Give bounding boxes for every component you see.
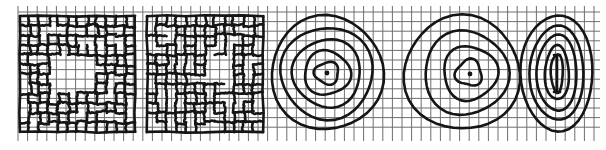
hand-drawn-stroke bbox=[97, 55, 107, 56]
hand-drawn-stroke bbox=[195, 83, 205, 84]
hand-drawn-stroke bbox=[234, 93, 235, 103]
hand-drawn-stroke bbox=[87, 24, 97, 25]
hand-drawn-stroke bbox=[215, 24, 224, 25]
hand-drawn-stroke bbox=[87, 92, 97, 93]
hand-drawn-stroke bbox=[195, 64, 196, 74]
hand-drawn-stroke bbox=[58, 113, 68, 114]
hand-drawn-stroke bbox=[116, 94, 117, 103]
hand-drawn-stroke bbox=[49, 121, 59, 122]
hand-drawn-stroke bbox=[106, 26, 115, 27]
hand-drawn-stroke bbox=[166, 25, 176, 26]
hand-drawn-stroke bbox=[147, 63, 157, 64]
hand-drawn-stroke bbox=[30, 72, 40, 73]
hand-drawn-stroke bbox=[106, 102, 116, 104]
hand-drawn-stroke bbox=[253, 55, 262, 56]
hand-drawn-stroke bbox=[126, 54, 135, 55]
hand-drawn-stroke bbox=[39, 44, 49, 45]
hand-drawn-stroke bbox=[115, 84, 117, 93]
hand-drawn-stroke bbox=[234, 45, 244, 46]
hand-drawn-stroke bbox=[184, 113, 185, 123]
hand-drawn-stroke bbox=[96, 123, 97, 132]
hand-drawn-stroke bbox=[147, 132, 263, 133]
hand-drawn-stroke bbox=[77, 26, 87, 27]
hand-drawn-stroke bbox=[97, 92, 107, 93]
hand-drawn-stroke bbox=[97, 73, 107, 74]
hand-drawn-stroke bbox=[106, 72, 116, 73]
hand-drawn-stroke bbox=[116, 55, 126, 56]
hand-drawn-stroke bbox=[39, 73, 49, 74]
hand-drawn-stroke bbox=[77, 121, 87, 122]
hand-drawn-stroke bbox=[39, 63, 49, 64]
hand-drawn-stroke bbox=[186, 103, 195, 104]
hand-drawn-stroke bbox=[49, 64, 50, 73]
hand-drawn-stroke bbox=[243, 54, 253, 55]
hand-drawn-stroke bbox=[30, 103, 31, 112]
hand-drawn-stroke bbox=[214, 103, 215, 113]
hand-drawn-stroke bbox=[213, 16, 214, 26]
hand-drawn-stroke bbox=[106, 64, 116, 65]
hand-drawn-stroke bbox=[205, 36, 215, 37]
hand-drawn-stroke bbox=[244, 26, 254, 27]
hand-drawn-stroke bbox=[116, 92, 125, 93]
hand-drawn-stroke bbox=[116, 104, 125, 105]
hand-drawn-stroke bbox=[157, 112, 166, 113]
hand-drawn-stroke bbox=[157, 35, 167, 36]
hand-drawn-stroke bbox=[234, 93, 244, 94]
hand-drawn-stroke bbox=[20, 122, 29, 123]
hand-drawn-stroke bbox=[78, 103, 87, 104]
hand-drawn-stroke bbox=[167, 113, 176, 114]
hand-drawn-stroke bbox=[252, 123, 253, 132]
hand-drawn-stroke bbox=[97, 104, 106, 105]
hand-drawn-stroke bbox=[186, 16, 187, 26]
hand-drawn-stroke bbox=[186, 54, 196, 55]
hand-drawn-stroke bbox=[205, 25, 214, 26]
hand-drawn-stroke bbox=[97, 64, 107, 65]
hand-drawn-stroke bbox=[29, 65, 39, 66]
hand-drawn-stroke bbox=[106, 34, 116, 35]
hand-drawn-stroke bbox=[30, 26, 31, 36]
hand-drawn-stroke bbox=[20, 35, 29, 36]
hand-drawn-stroke bbox=[116, 35, 126, 36]
hand-drawn-stroke bbox=[215, 33, 224, 34]
hand-drawn-stroke bbox=[68, 103, 78, 104]
hand-drawn-stroke bbox=[167, 44, 177, 45]
hand-drawn-stroke bbox=[115, 45, 116, 55]
hand-drawn-stroke bbox=[205, 84, 215, 85]
hand-drawn-stroke bbox=[97, 110, 107, 111]
hand-drawn-stroke bbox=[29, 24, 39, 25]
hand-drawn-stroke bbox=[234, 54, 243, 55]
hand-drawn-stroke bbox=[126, 16, 127, 26]
hand-drawn-stroke bbox=[205, 102, 215, 103]
hand-drawn-stroke bbox=[58, 94, 68, 95]
hand-drawn-stroke bbox=[126, 73, 135, 74]
hand-drawn-stroke bbox=[116, 75, 126, 76]
hand-drawn-stroke bbox=[49, 53, 59, 54]
hand-drawn-stroke bbox=[157, 121, 167, 122]
hand-drawn-stroke bbox=[126, 26, 135, 28]
hand-drawn-stroke bbox=[156, 84, 157, 94]
hand-drawn-stroke bbox=[157, 83, 167, 84]
hand-drawn-stroke bbox=[49, 113, 59, 114]
hand-drawn-stroke bbox=[176, 123, 186, 124]
hand-drawn-stroke bbox=[58, 35, 68, 36]
hand-drawn-stroke bbox=[76, 35, 77, 45]
hand-drawn-stroke bbox=[49, 104, 59, 105]
hand-drawn-stroke bbox=[234, 65, 244, 66]
hand-drawn-stroke bbox=[147, 112, 157, 113]
figure-canvas bbox=[0, 0, 606, 150]
hand-drawn-stroke bbox=[126, 35, 135, 36]
hand-drawn-stroke bbox=[254, 64, 264, 65]
hand-drawn-stroke bbox=[87, 55, 97, 56]
hand-drawn-stroke bbox=[97, 83, 107, 84]
contour-ring bbox=[455, 58, 482, 85]
hand-drawn-stroke bbox=[215, 113, 225, 114]
hand-drawn-stroke bbox=[186, 111, 196, 112]
hand-drawn-stroke bbox=[254, 113, 264, 114]
hand-drawn-stroke bbox=[20, 73, 30, 74]
hand-drawn-stroke bbox=[176, 35, 186, 36]
hand-drawn-stroke bbox=[184, 64, 185, 74]
hand-drawn-stroke bbox=[176, 112, 186, 113]
hand-drawn-stroke bbox=[28, 16, 29, 25]
hand-drawn-stroke bbox=[176, 83, 186, 84]
hand-drawn-stroke bbox=[196, 123, 205, 124]
